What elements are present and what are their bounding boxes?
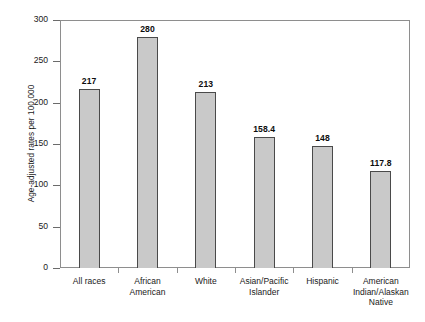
bar-chart: Age-adjusted rates per 100,000 050100150… (0, 0, 425, 322)
y-tick-label: 0 (0, 262, 48, 272)
y-tick-mark (53, 61, 60, 62)
bar-value-label: 117.8 (346, 158, 416, 168)
y-tick-mark (53, 103, 60, 104)
x-axis-separator-tick (177, 268, 178, 273)
bar-value-label: 213 (171, 79, 241, 89)
y-tick-label: 150 (0, 138, 48, 148)
y-tick-label: 300 (0, 14, 48, 24)
bar-value-label: 148 (288, 133, 358, 143)
category-label-line: American (105, 287, 191, 298)
bar-value-label: 280 (113, 24, 183, 34)
category-label-line: Native (338, 297, 424, 308)
y-tick-mark (53, 268, 60, 269)
y-tick-mark (53, 144, 60, 145)
x-axis-separator-tick (352, 268, 353, 273)
bar (312, 146, 333, 268)
category-label-line: Islander (221, 287, 307, 298)
bar (79, 89, 100, 268)
bar (370, 171, 391, 268)
bar-value-label: 217 (54, 76, 124, 86)
bar (254, 137, 275, 268)
category-label-line: Indian/Alaskan (338, 287, 424, 298)
bar (195, 92, 216, 268)
y-tick-mark (53, 185, 60, 186)
category-label-line: American (338, 276, 424, 287)
y-tick-label: 50 (0, 221, 48, 231)
y-tick-label: 100 (0, 179, 48, 189)
x-axis-separator-tick (235, 268, 236, 273)
y-tick-mark (53, 20, 60, 21)
plot-area (60, 20, 410, 268)
x-axis-separator-tick (293, 268, 294, 273)
y-tick-label: 250 (0, 55, 48, 65)
x-axis-category-label: AmericanIndian/AlaskanNative (338, 276, 424, 308)
y-tick-mark (53, 227, 60, 228)
y-tick-label: 200 (0, 97, 48, 107)
bar (137, 37, 158, 268)
x-axis-separator-tick (118, 268, 119, 273)
